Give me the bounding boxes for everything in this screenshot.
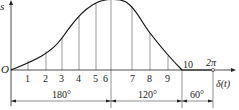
point-label-1: 1 — [25, 73, 30, 84]
segment-label-dwell: 60° — [190, 89, 204, 100]
y-axis-arrow-icon — [9, 0, 13, 5]
end-label: 2π — [206, 57, 217, 68]
point-label-3: 3 — [59, 73, 64, 84]
ordinate-lines — [28, 0, 168, 70]
x-axis-label: δ(t) — [216, 78, 231, 90]
x-axis-arrow-icon — [231, 68, 236, 72]
point-label-6: 6 — [103, 73, 108, 84]
point-label-10: 10 — [183, 59, 193, 70]
segment-label-return: 120° — [138, 89, 157, 100]
point-label-5: 5 — [93, 73, 98, 84]
cam-displacement-diagram: s O δ(t) 1 2 3 4 5 6 7 8 9 10 2π — [0, 0, 239, 110]
point-label-4: 4 — [76, 73, 81, 84]
point-label-8: 8 — [147, 73, 152, 84]
segment-label-rise: 180° — [52, 89, 71, 100]
dimension-lines — [11, 70, 213, 108]
point-label-7: 7 — [130, 73, 135, 84]
point-label-2: 2 — [43, 73, 48, 84]
origin-label: O — [1, 63, 9, 75]
point-label-9: 9 — [165, 73, 170, 84]
y-axis-label: s — [0, 0, 4, 12]
